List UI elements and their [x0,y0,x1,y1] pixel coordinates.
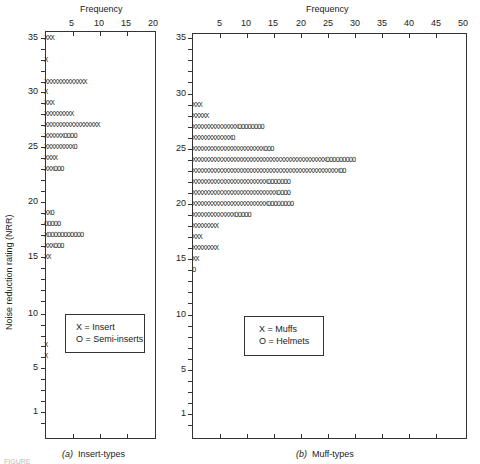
y-tick-label: 5 [18,362,38,372]
tally-row-nrr-19: XXXXXXXXXXXXXOOOOO [192,211,251,219]
tally-row-nrr-24: XXXX [44,154,57,162]
tally-row-nrr-26: XXXXXXOOOO [44,132,77,140]
tally-row-nrr-14: O [192,266,195,274]
panel-b-caption-text: Muff-types [312,449,354,459]
tally-row-nrr-30: X [44,88,47,96]
tally-row-nrr-29: XXX [192,101,202,109]
tally-row-nrr-16: XXXXXXXX [192,244,218,252]
tally-row-nrr-17: XXX [192,233,202,241]
y-tick-label: 10 [18,308,38,318]
legend-entry-helmets: O = Helmets [259,335,323,347]
x-tick-label: 15 [121,18,131,28]
y-axis-title: Noise reduction rating (NRR) [4,214,14,330]
x-tick-label: 10 [241,18,251,28]
legend-entry-semi-inserts: O = Semi-inserts [76,333,144,345]
tally-row-nrr-7: X [44,341,47,349]
y-tick-label: 30 [18,86,38,96]
panel-b-caption-letter: (b) [296,449,307,459]
tally-row-nrr-33: X [44,56,47,64]
panel-a-x-axis-title: Frequency [80,4,123,14]
legend-entry-insert: X = Insert [76,321,144,333]
tally-row-nrr-28: XXXXXXXXX [44,110,73,118]
figure-label: FIGURE [4,458,30,464]
y-tick-label: 1 [166,408,186,418]
tally-row-nrr-23: XXXXXXXXXXXXXXXXXXXXXXXXXXXXXXXXXXXXXXXX… [192,167,345,175]
y-tick-label: 25 [166,143,186,153]
panel-a-legend: X = Insert O = Semi-inserts [65,314,145,353]
panel-b-legend: X = Muffs O = Helmets [244,316,324,356]
x-tick-label: 5 [217,18,222,28]
tally-row-nrr-16: XXXOOO [44,242,64,250]
x-tick-label: 50 [458,18,468,28]
tally-row-nrr-26: XXXXXXXXXXXXO [192,134,234,142]
x-tick-label: 20 [296,18,306,28]
legend-entry-muffs: X = Muffs [259,323,323,335]
tally-row-nrr-21: XXXXXXXXXXXXXXXXXXXXXXXXXXOOOO [192,189,290,197]
x-tick-label: 45 [431,18,441,28]
x-tick-label: 15 [268,18,278,28]
tally-row-nrr-20: XXXXXXXXXXXXXXXXXXXXXXXOOOOOOOO [192,200,293,208]
panel-a-caption-letter: (a) [62,449,73,459]
tally-row-nrr-25: XXXXXXXXXXXXXXXXXXXXXXOOO [192,145,274,153]
tally-row-nrr-22: XXXXXXXXXXXXXXXXXXXXXXXOOOOOOO [192,178,290,186]
x-tick-label: 5 [69,18,74,28]
y-tick-label: 15 [166,253,186,263]
tally-row-nrr-19: XXO [44,209,54,217]
y-tick-label: 1 [18,406,38,416]
y-tick-label: 10 [166,309,186,319]
tally-row-nrr-35: XXX [44,34,54,42]
tally-row-nrr-25: XXXXXXXXXO [44,143,77,151]
panel-b-caption: (b) Muff-types [296,449,354,459]
tally-row-nrr-27: XXXXXXXXXXXXXXOOOOOOOO [192,123,264,131]
x-tick-label: 10 [94,18,104,28]
tally-row-nrr-15: XX [192,255,199,263]
x-tick-label: 40 [404,18,414,28]
y-tick-label: 20 [166,198,186,208]
tally-row-nrr-18: XXXXXXXX [192,222,218,230]
panel-a-caption-text: Insert-types [78,449,125,459]
y-tick-label: 15 [18,251,38,261]
y-tick-label: 35 [18,32,38,42]
tally-row-nrr-23: XXXOOO [44,165,64,173]
tally-row-nrr-6: X [44,352,47,360]
tally-row-nrr-28: XXXXX [192,112,208,120]
x-tick-label: 25 [323,18,333,28]
tally-row-nrr-31: XXXXXXXXXXXXX [44,78,86,86]
x-tick-label: 20 [148,18,158,28]
tally-row-nrr-15: XX [44,253,51,261]
tally-row-nrr-18: OOOOO [44,220,60,228]
tally-row-nrr-17: XOOOOOOOOOOO [44,231,83,239]
panel-a-caption: (a) Insert-types [62,449,125,459]
panel-b-plot-area [192,33,467,439]
panel-b-x-axis-title: Frequency [306,4,349,14]
y-tick-label: 20 [18,196,38,206]
y-tick-label: 30 [166,88,186,98]
tally-row-nrr-27: XXXXXXXXXXXXXXXXX [44,121,100,129]
x-tick-label: 30 [350,18,360,28]
y-tick-label: 35 [166,32,186,42]
x-tick-label: 35 [377,18,387,28]
tally-row-nrr-24: XXXXXXXXXXXXXXXXXXXXXXXXXXXXXXXXXXXXXXXX… [192,156,355,164]
tally-row-nrr-29: XXX [44,99,54,107]
y-tick-label: 5 [166,364,186,374]
y-tick-label: 25 [18,141,38,151]
